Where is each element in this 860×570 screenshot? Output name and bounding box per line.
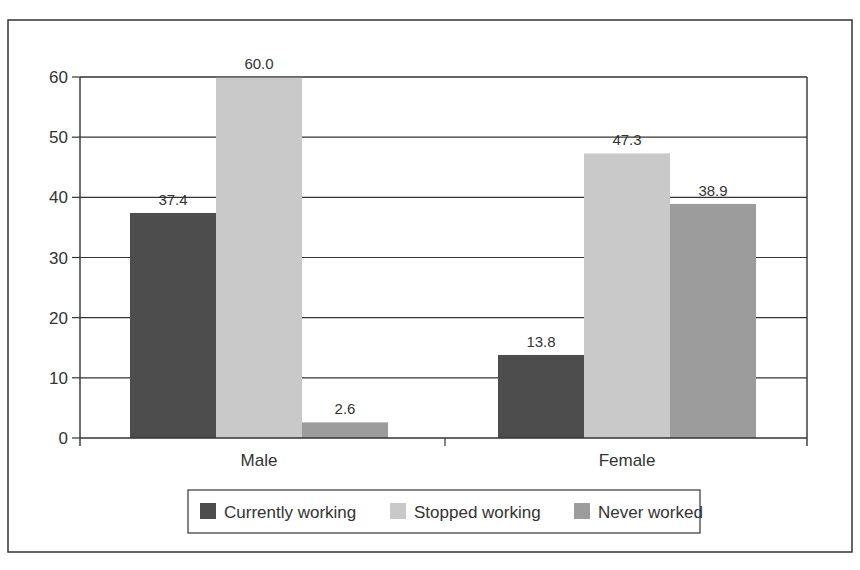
bar — [584, 153, 670, 438]
y-tick-label: 10 — [49, 369, 68, 388]
legend-label: Stopped working — [414, 503, 541, 522]
x-category-label: Female — [599, 451, 656, 470]
bar — [498, 355, 584, 438]
data-label: 47.3 — [612, 131, 641, 148]
data-label: 37.4 — [158, 191, 187, 208]
bar-chart: 010203040506037.460.02.6Male13.847.338.9… — [0, 0, 860, 570]
bar — [302, 422, 388, 438]
y-tick-label: 60 — [49, 68, 68, 87]
bar — [670, 204, 756, 438]
data-label: 60.0 — [244, 55, 273, 72]
y-tick-label: 50 — [49, 128, 68, 147]
data-label: 13.8 — [526, 333, 555, 350]
data-label: 38.9 — [698, 182, 727, 199]
bar — [130, 213, 216, 438]
y-tick-label: 20 — [49, 309, 68, 328]
legend-swatch — [390, 503, 406, 519]
data-label: 2.6 — [335, 400, 356, 417]
y-tick-label: 0 — [59, 429, 68, 448]
x-category-label: Male — [241, 451, 278, 470]
legend-swatch — [200, 503, 216, 519]
legend: Currently workingStopped workingNever wo… — [188, 490, 703, 533]
bar — [216, 77, 302, 438]
legend-label: Currently working — [224, 503, 356, 522]
y-tick-label: 40 — [49, 188, 68, 207]
legend-swatch — [574, 503, 590, 519]
y-tick-label: 30 — [49, 249, 68, 268]
legend-label: Never worked — [598, 503, 703, 522]
